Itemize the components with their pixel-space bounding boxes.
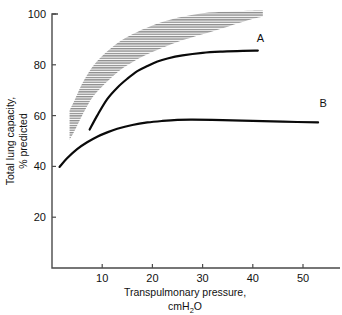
x-tick-label: 40 bbox=[247, 272, 259, 284]
curve-label-a: A bbox=[257, 32, 265, 44]
y-tick-label: 40 bbox=[34, 160, 46, 172]
x-axis-tick-labels: 1020304050 bbox=[96, 272, 309, 284]
curve-b bbox=[60, 120, 319, 167]
x-axis-title-line1: Transpulmonary pressure, bbox=[124, 286, 246, 298]
x-axis-title-unit-suffix: O bbox=[194, 300, 202, 312]
curve-end-labels: AB bbox=[257, 32, 327, 109]
y-tick-label: 100 bbox=[28, 8, 46, 20]
y-axis-title-line2: % predicted bbox=[17, 113, 29, 169]
x-tick-label: 10 bbox=[96, 272, 108, 284]
x-tick-label: 50 bbox=[297, 272, 309, 284]
x-tick-label: 30 bbox=[196, 272, 208, 284]
chart-canvas: 1020304050 20406080100 AB Transpulmonary… bbox=[0, 0, 342, 315]
x-axis-title: Transpulmonary pressure, cmH2O bbox=[124, 286, 246, 315]
x-tick-label: 20 bbox=[146, 272, 158, 284]
x-axis-title-unit-prefix: cmH bbox=[168, 300, 190, 312]
x-axis-title-line2: cmH2O bbox=[168, 300, 202, 315]
y-axis-tick-labels: 20406080100 bbox=[28, 8, 46, 223]
plot-axes bbox=[52, 14, 340, 268]
y-axis-title: Total lung capacity, % predicted bbox=[4, 97, 29, 186]
y-tick-label: 80 bbox=[34, 59, 46, 71]
y-tick-label: 20 bbox=[34, 211, 46, 223]
y-axis-title-line1: Total lung capacity, bbox=[4, 97, 16, 186]
curve-label-b: B bbox=[319, 97, 326, 109]
chart-figure: 1020304050 20406080100 AB Transpulmonary… bbox=[0, 0, 342, 315]
y-tick-label: 60 bbox=[34, 110, 46, 122]
